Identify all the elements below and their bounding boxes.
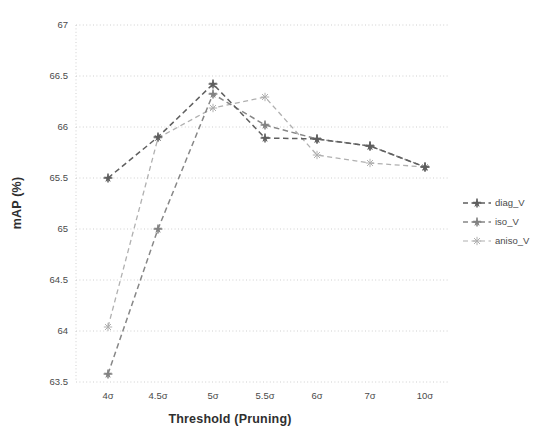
x-axis-title: Threshold (Pruning) — [0, 412, 460, 426]
chart-figure: 67 66.5 66 65.5 65 64.5 64 63.5 4σ 4.5σ … — [0, 0, 557, 447]
legend-marker-aniso-v-icon — [462, 234, 492, 248]
legend-item-diag-v: diag_V — [462, 193, 554, 212]
y-tick-label-67: 67 — [22, 19, 68, 30]
x-tick-label-7sigma: 7σ — [348, 390, 392, 401]
plot-background — [76, 25, 450, 382]
x-tick-label-5-5sigma: 5.5σ — [243, 390, 287, 401]
y-tick-label-64: 64 — [22, 325, 68, 336]
x-tick-label-10sigma: 10σ — [403, 390, 447, 401]
legend-label-diag-v: diag_V — [495, 196, 525, 210]
x-tick-label-5sigma: 5σ — [191, 390, 235, 401]
legend-label-iso-v: iso_V — [495, 215, 519, 229]
chart-legend: diag_V iso_V aniso_V — [462, 193, 554, 250]
y-tick-label-65-5: 65.5 — [22, 172, 68, 183]
y-tick-label-66: 66 — [22, 121, 68, 132]
legend-marker-diag-v-icon — [462, 196, 492, 210]
y-tick-label-65: 65 — [22, 223, 68, 234]
legend-item-iso-v: iso_V — [462, 212, 554, 231]
y-tick-label-66-5: 66.5 — [22, 70, 68, 81]
x-tick-label-4sigma: 4σ — [86, 390, 130, 401]
y-tick-label-63-5: 63.5 — [22, 376, 68, 387]
legend-item-aniso-v: aniso_V — [462, 231, 554, 250]
legend-marker-iso-v-icon — [462, 215, 492, 229]
x-tick-label-4-5sigma: 4.5σ — [136, 390, 180, 401]
legend-label-aniso-v: aniso_V — [495, 234, 529, 248]
y-tick-label-64-5: 64.5 — [22, 274, 68, 285]
y-axis-title: mAP (%) — [10, 158, 24, 248]
x-tick-label-6sigma: 6σ — [295, 390, 339, 401]
